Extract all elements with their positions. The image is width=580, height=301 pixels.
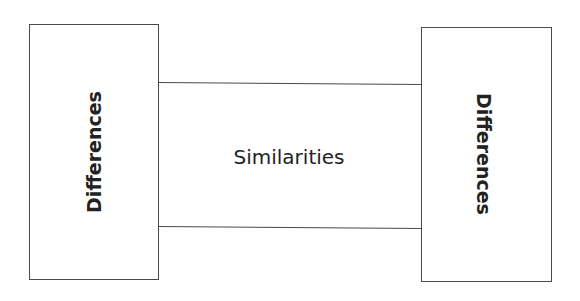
similarities-top-line [158, 82, 422, 85]
similarities-label: Similarities [233, 145, 344, 169]
right-differences-label: Differences [473, 93, 495, 215]
left-differences-label: Differences [83, 91, 105, 213]
similarities-bottom-line [158, 226, 422, 229]
